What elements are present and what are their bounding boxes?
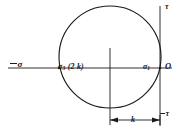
sigma1-subscript: 1 <box>147 65 150 71</box>
origin-label: O <box>165 62 171 71</box>
dimension-arrowhead-left <box>110 118 118 123</box>
dimension-k-label: k <box>131 116 135 124</box>
positive-tau-axis-label: τ <box>165 3 169 11</box>
mohr-circle-canvas <box>0 0 178 133</box>
mohr-circle-figure: σ σ3 (2 k) σ1 O τ τ k <box>0 0 178 133</box>
minus-sign-glyph-tau <box>160 113 165 114</box>
sigma3-label: σ3 (2 k) <box>58 63 84 72</box>
negative-tau-axis-label: τ <box>160 110 169 118</box>
negative-sigma-axis-label: σ <box>10 60 22 69</box>
sigma3-value: (2 k) <box>68 62 84 71</box>
negative-sigma-symbol: σ <box>18 59 23 69</box>
sigma1-point-marker <box>159 67 161 69</box>
sigma1-label: σ1 <box>143 63 150 72</box>
dimension-arrowhead-right <box>152 118 160 123</box>
negative-tau-symbol: τ <box>166 109 170 118</box>
minus-sign-glyph <box>10 63 17 64</box>
